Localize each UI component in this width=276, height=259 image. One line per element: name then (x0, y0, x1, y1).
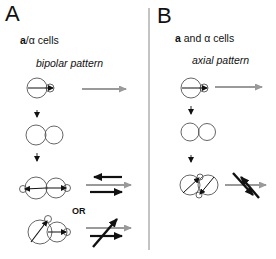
panel-a-step3b-cells (28, 216, 71, 245)
panel-a-step2-cells (26, 125, 63, 145)
panel-b-step1-cell (181, 78, 208, 98)
panel-a-step3a-cells (20, 177, 71, 199)
panel-b-step3-arrows (225, 173, 266, 198)
panel-a-step1-cell (27, 78, 54, 98)
panel-a-step3a-arrows (86, 177, 131, 192)
panel-b-step2-cells (181, 123, 216, 141)
panel-b-step3-cells (180, 174, 218, 198)
panel-a-step3b-arrows (86, 219, 131, 247)
budding-diagram (0, 0, 276, 259)
